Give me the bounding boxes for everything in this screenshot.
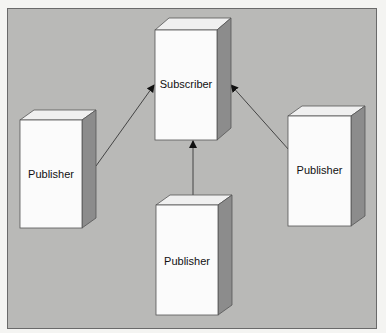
edge-left-to-subscriber <box>96 85 154 166</box>
publisher-left-label: Publisher <box>20 168 82 180</box>
publisher-bottom-label: Publisher <box>156 255 218 267</box>
subscriber-label: Subscriber <box>155 78 217 90</box>
publisher-right-label: Publisher <box>288 164 351 176</box>
edge-right-to-subscriber <box>231 85 289 150</box>
